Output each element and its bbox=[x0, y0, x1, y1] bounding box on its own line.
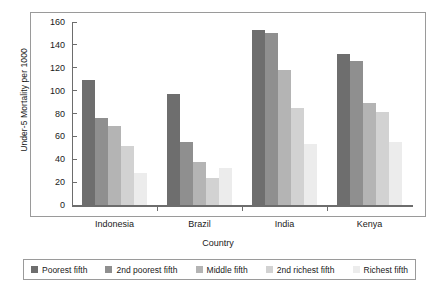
y-tick-160: 160 bbox=[50, 17, 72, 27]
bar-brazil-s2[interactable] bbox=[180, 142, 193, 205]
bar-kenya-s1[interactable] bbox=[337, 54, 350, 205]
plot-area: 020406080100120140160 bbox=[72, 22, 412, 205]
legend-swatch-icon bbox=[353, 266, 360, 273]
bar-kenya-s4[interactable] bbox=[376, 112, 389, 205]
bars bbox=[82, 22, 147, 205]
y-tick-0: 0 bbox=[60, 200, 72, 210]
legend-swatch-icon bbox=[31, 266, 38, 273]
bar-india-s1[interactable] bbox=[252, 30, 265, 205]
legend-swatch-icon bbox=[266, 266, 273, 273]
category-label-indonesia: Indonesia bbox=[95, 219, 134, 229]
bar-group-indonesia bbox=[72, 22, 157, 205]
y-tick-80: 80 bbox=[55, 109, 72, 119]
bar-india-s3[interactable] bbox=[278, 70, 291, 205]
bar-groups bbox=[72, 22, 412, 205]
bar-group-brazil bbox=[157, 22, 242, 205]
bar-indonesia-s5[interactable] bbox=[134, 173, 147, 205]
bar-brazil-s1[interactable] bbox=[167, 94, 180, 205]
legend-item-1[interactable]: Poorest fifth bbox=[31, 265, 87, 275]
bar-indonesia-s4[interactable] bbox=[121, 146, 134, 205]
bar-indonesia-s1[interactable] bbox=[82, 80, 95, 205]
y-axis-title: Under-5 Mortality per 1000 bbox=[19, 30, 29, 170]
legend-label: 2nd richest fifth bbox=[277, 265, 335, 275]
x-tick-mark bbox=[157, 205, 158, 211]
bar-kenya-s2[interactable] bbox=[350, 61, 363, 205]
y-tick-120: 120 bbox=[50, 63, 72, 73]
y-tick-100: 100 bbox=[50, 86, 72, 96]
chart-legend: Poorest fifth2nd poorest fifthMiddle fif… bbox=[23, 259, 416, 280]
bar-india-s4[interactable] bbox=[291, 108, 304, 205]
legend-item-2[interactable]: 2nd poorest fifth bbox=[105, 265, 177, 275]
x-axis-title: Country bbox=[0, 238, 436, 248]
bar-indonesia-s2[interactable] bbox=[95, 118, 108, 205]
y-tick-140: 140 bbox=[50, 40, 72, 50]
x-tick-mark bbox=[242, 205, 243, 211]
legend-label: Middle fifth bbox=[207, 265, 248, 275]
legend-label: Richest fifth bbox=[364, 265, 408, 275]
bar-indonesia-s3[interactable] bbox=[108, 126, 121, 205]
legend-item-3[interactable]: Middle fifth bbox=[196, 265, 248, 275]
bar-chart: Under-5 Mortality per 1000 0204060801001… bbox=[0, 0, 436, 291]
bar-kenya-s5[interactable] bbox=[389, 142, 402, 205]
bars bbox=[167, 22, 232, 205]
y-tick-60: 60 bbox=[55, 131, 72, 141]
category-label-india: India bbox=[275, 219, 295, 229]
bar-group-india bbox=[242, 22, 327, 205]
x-tick-mark bbox=[327, 205, 328, 211]
bar-brazil-s3[interactable] bbox=[193, 162, 206, 205]
category-label-brazil: Brazil bbox=[188, 219, 211, 229]
y-tick-40: 40 bbox=[55, 154, 72, 164]
bar-brazil-s4[interactable] bbox=[206, 178, 219, 205]
legend-item-4[interactable]: 2nd richest fifth bbox=[266, 265, 335, 275]
legend-label: Poorest fifth bbox=[42, 265, 87, 275]
bar-india-s5[interactable] bbox=[304, 144, 317, 205]
bar-group-kenya bbox=[327, 22, 412, 205]
legend-swatch-icon bbox=[196, 266, 203, 273]
bar-brazil-s5[interactable] bbox=[219, 168, 232, 205]
bar-kenya-s3[interactable] bbox=[363, 103, 376, 205]
legend-label: 2nd poorest fifth bbox=[116, 265, 177, 275]
legend-item-5[interactable]: Richest fifth bbox=[353, 265, 408, 275]
category-label-kenya: Kenya bbox=[357, 219, 383, 229]
bars bbox=[337, 22, 402, 205]
bar-india-s2[interactable] bbox=[265, 33, 278, 205]
y-tick-20: 20 bbox=[55, 177, 72, 187]
legend-swatch-icon bbox=[105, 266, 112, 273]
bars bbox=[252, 22, 317, 205]
